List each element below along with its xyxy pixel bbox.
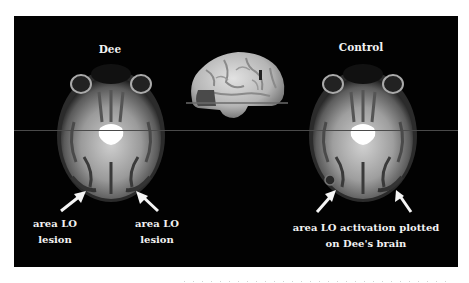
scan-artifact-line <box>14 130 458 131</box>
arrow-up-left-icon <box>136 191 158 211</box>
arrow-up-right-icon <box>61 191 86 211</box>
arrow-up-right-icon <box>317 190 336 212</box>
label-right-lesion: area LO lesion <box>135 216 179 248</box>
arrow-up-left-icon <box>395 190 411 212</box>
label-control-activation: area LO activation plotted on Dee's brai… <box>293 220 439 252</box>
label-left-lesion: area LO lesion <box>33 216 77 248</box>
